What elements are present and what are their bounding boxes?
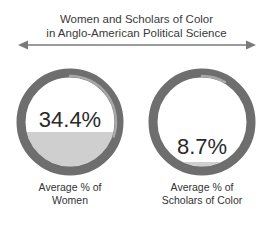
double-arrow-icon xyxy=(18,41,256,50)
scholars-of-color-label-line2: Scholars of Color xyxy=(142,194,262,207)
scholars-of-color-label: Average % of Scholars of Color xyxy=(142,181,262,207)
women-label-line2: Women xyxy=(10,194,130,207)
scholars-of-color-label-line1: Average % of xyxy=(142,181,262,194)
scholars-of-color-percent-value: 8.7% xyxy=(152,134,252,160)
women-label-line1: Average % of xyxy=(10,181,130,194)
women-label: Average % of Women xyxy=(10,181,130,207)
women-percent-value: 34.4% xyxy=(20,107,120,133)
